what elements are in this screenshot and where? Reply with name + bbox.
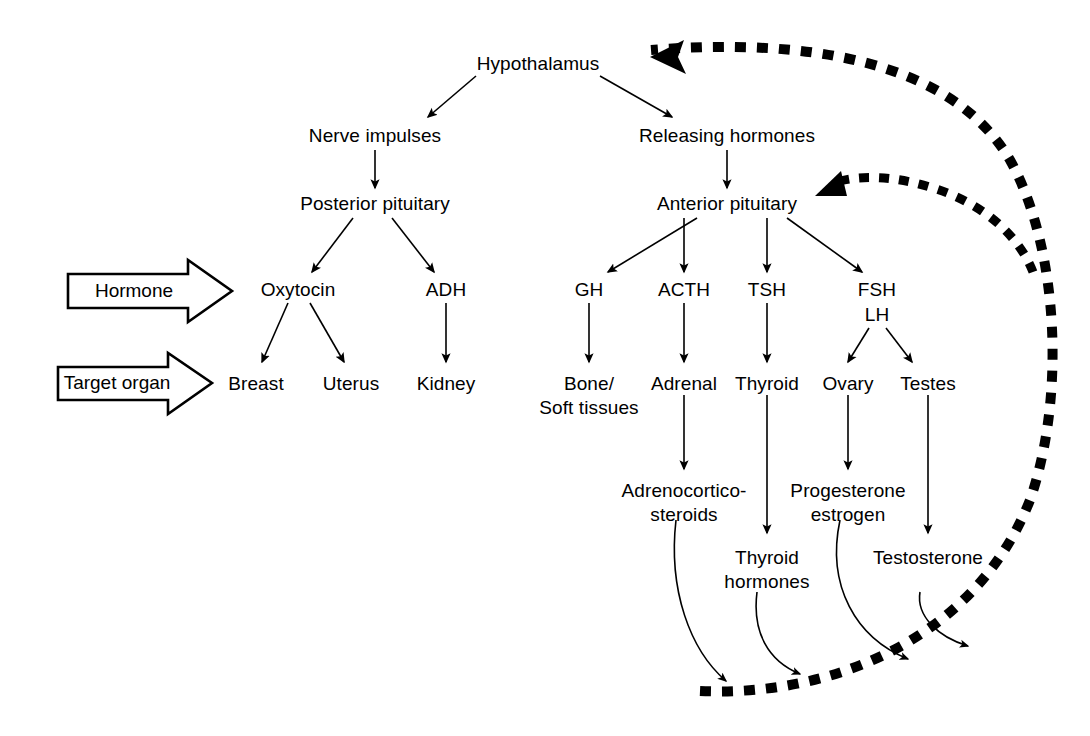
node-oxytocin[interactable]: Oxytocin — [261, 278, 336, 301]
node-progesterone-estrogen-line2[interactable]: estrogen — [811, 503, 886, 526]
node-ovary[interactable]: Ovary — [822, 372, 873, 395]
edge-anterior-pituitary-to-fsh — [787, 218, 862, 272]
node-bone-soft-tissues-line1[interactable]: Bone/ — [564, 372, 614, 395]
edge-posterior-pituitary-to-oxytocin — [312, 218, 353, 272]
edge-hypothalamus-to-releasing-hormones — [600, 76, 672, 117]
node-fsh[interactable]: FSH — [858, 278, 896, 301]
node-thyroid-hormones-line1[interactable]: Thyroid — [735, 546, 799, 569]
callout-label-target-organ: Target organ — [64, 372, 171, 394]
node-tsh[interactable]: TSH — [748, 278, 786, 301]
node-kidney[interactable]: Kidney — [417, 372, 476, 395]
edge-progesterone-estrogen-to-feedback — [837, 520, 908, 659]
edge-lh-to-testes — [886, 328, 912, 362]
diagram-canvas — [0, 0, 1090, 736]
edge-lh-to-ovary — [848, 328, 869, 362]
node-anterior-pituitary[interactable]: Anterior pituitary — [657, 192, 797, 215]
node-uterus[interactable]: Uterus — [323, 372, 380, 395]
edge-oxytocin-to-breast — [262, 303, 288, 362]
node-gh[interactable]: GH — [575, 278, 604, 301]
node-testosterone[interactable]: Testosterone — [873, 546, 983, 569]
node-posterior-pituitary[interactable]: Posterior pituitary — [300, 192, 450, 215]
node-lh[interactable]: LH — [865, 303, 890, 326]
endocrine-axis-diagram: Hypothalamus Nerve impulses Releasing ho… — [0, 0, 1090, 736]
edge-adrenocorticosteroids-to-feedback — [674, 520, 726, 681]
edge-thyroid-hormones-to-feedback — [756, 592, 800, 674]
edge-testosterone-to-feedback — [920, 592, 968, 646]
node-hypothalamus[interactable]: Hypothalamus — [477, 52, 600, 75]
node-thyroid-hormones-line2[interactable]: hormones — [724, 570, 809, 593]
node-adrenal[interactable]: Adrenal — [651, 372, 717, 395]
callout-label-hormone: Hormone — [95, 280, 173, 302]
edge-oxytocin-to-uterus — [310, 303, 344, 362]
node-breast[interactable]: Breast — [228, 372, 284, 395]
node-progesterone-estrogen-line1[interactable]: Progesterone — [790, 479, 905, 502]
feedback-arrowhead-anterior-pituitary — [815, 171, 847, 196]
node-adrenocorticosteroids-line2[interactable]: steroids — [650, 503, 717, 526]
node-nerve-impulses[interactable]: Nerve impulses — [309, 124, 441, 147]
node-testes[interactable]: Testes — [900, 372, 956, 395]
edge-hypothalamus-to-nerve-impulses — [428, 76, 476, 117]
node-releasing-hormones[interactable]: Releasing hormones — [639, 124, 815, 147]
edge-posterior-pituitary-to-adh — [392, 218, 434, 272]
node-adrenocorticosteroids-line1[interactable]: Adrenocortico- — [622, 479, 747, 502]
node-bone-soft-tissues-line2[interactable]: Soft tissues — [539, 396, 638, 419]
node-thyroid[interactable]: Thyroid — [735, 372, 799, 395]
node-acth[interactable]: ACTH — [658, 278, 710, 301]
feedback-loop-to-anterior-pituitary — [815, 171, 1033, 272]
node-adh[interactable]: ADH — [426, 278, 466, 301]
